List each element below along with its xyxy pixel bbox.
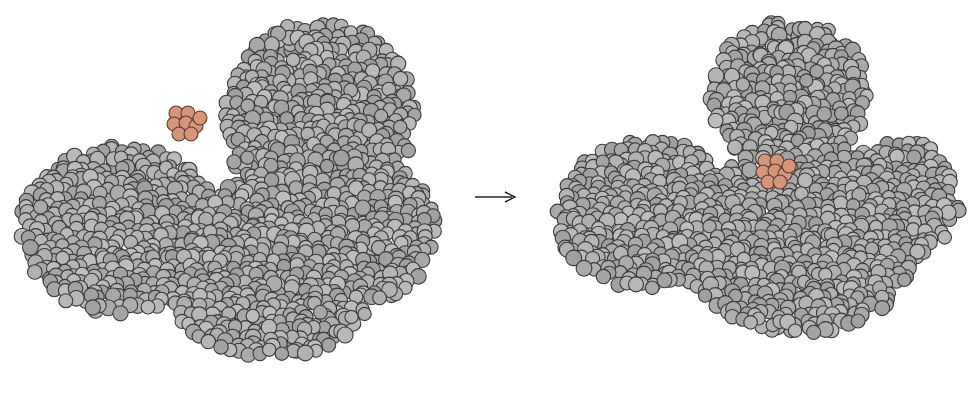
ligand-free (167, 106, 207, 141)
reaction-arrow-icon (475, 192, 515, 202)
induced-fit-diagram (0, 0, 978, 393)
protein-open-conformation (14, 18, 442, 362)
